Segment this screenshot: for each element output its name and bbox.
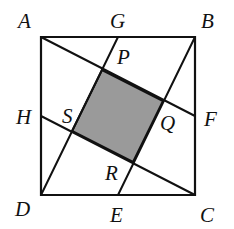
label-b: B — [201, 9, 214, 33]
label-p: P — [116, 45, 130, 69]
label-c: C — [200, 203, 215, 227]
label-a: A — [16, 9, 31, 33]
label-d: D — [14, 197, 30, 221]
label-s: S — [62, 104, 73, 128]
label-f: F — [203, 107, 217, 131]
label-e: E — [109, 203, 123, 227]
label-r: R — [104, 161, 118, 185]
label-q: Q — [160, 111, 175, 135]
label-g: G — [110, 9, 125, 33]
label-h: H — [15, 105, 33, 129]
geometry-diagram: A G B H F D E C P Q R S — [0, 0, 234, 229]
shaded-square-pqrs — [72, 70, 163, 162]
